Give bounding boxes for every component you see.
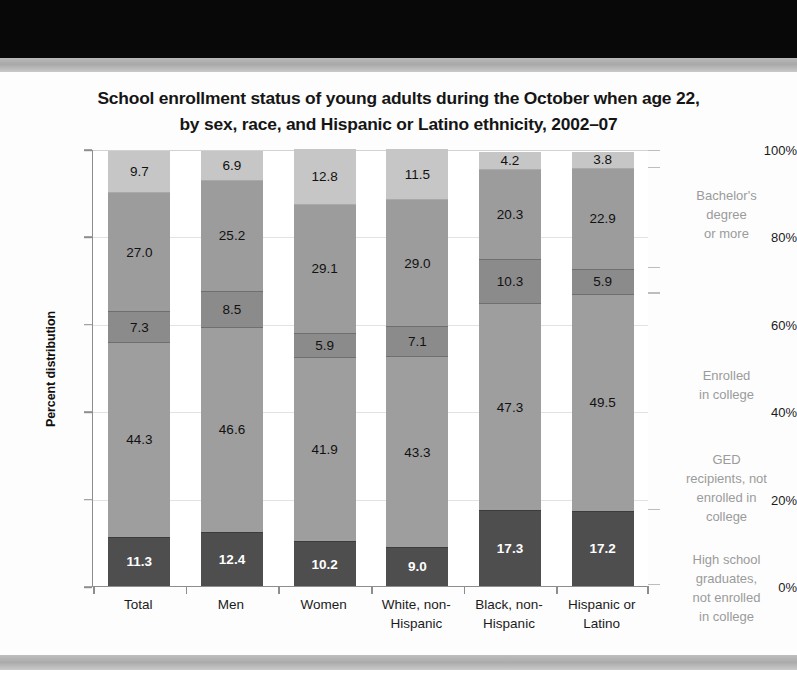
bar-segment[interactable]: 41.9 [294,358,356,541]
x-axis-label-line: Hispanic [368,614,464,633]
bar-segment[interactable]: 12.8 [294,149,356,205]
chart-title: School enrollment status of young adults… [40,85,757,137]
x-axis-label-line: Latino [554,614,650,633]
bar-segment[interactable]: 3.8 [572,152,634,169]
bar-segment[interactable]: 46.6 [201,328,263,532]
bar-column[interactable]: 11.344.37.327.09.7 [108,150,170,586]
x-axis-label: Women [276,595,372,614]
x-axis-label-line: White, non- [368,595,464,614]
chart-title-line-1: School enrollment status of young adults… [40,85,757,111]
legend-item-line: graduates, [660,569,793,588]
y-tick-mark-40 [84,411,92,413]
legend-item-line: college [660,507,793,526]
slide-body: School enrollment status of young adults… [0,72,797,655]
bar-segment[interactable]: 9.7 [108,151,170,193]
x-axis-label: Hispanic orLatino [554,595,650,633]
x-axis-label-line: Men [183,595,279,614]
bar-segment[interactable]: 10.2 [294,541,356,586]
legend-leader-tick [648,167,660,168]
legend-leader-tick [648,150,660,151]
bar-segment[interactable]: 11.5 [386,149,448,199]
bar-segment[interactable]: 6.9 [201,151,263,181]
top-black-band [0,0,797,58]
legend-item-line: or more [660,224,793,243]
x-axis-label: Total [90,595,186,614]
bar-segment[interactable]: 25.2 [201,181,263,291]
y-tick-mark-0 [84,586,92,588]
bar-segment[interactable]: 49.5 [572,295,634,511]
plot-area: 11.344.37.327.09.712.446.68.525.26.910.2… [92,150,648,587]
legend-item-line: enrolled in [660,488,793,507]
bar-segment[interactable]: 12.4 [201,532,263,586]
bottom-divider-rule [0,655,797,670]
bar-segment[interactable]: 29.0 [386,200,448,327]
bar-column[interactable]: 10.241.95.929.112.8 [294,150,356,586]
bar-column[interactable]: 17.249.55.922.93.8 [572,150,634,586]
bottom-margin [0,670,797,678]
legend-item-line: High school [660,550,793,569]
bar-segment[interactable]: 9.0 [386,547,448,586]
bar-segment[interactable]: 5.9 [294,333,356,359]
x-axis-label: Black, non-Hispanic [461,595,557,633]
legend-item: Enrolledin college [660,366,793,404]
y-tick-mark-80 [84,237,92,239]
legend-item-line: Bachelor's [660,186,793,205]
legend-item-line: in college [660,607,793,626]
legend-item-line: recipients, not [660,469,793,488]
bar-segment[interactable]: 4.2 [479,152,541,170]
chart-legend: Bachelor'sdegreeor moreEnrolledin colleg… [660,150,793,587]
x-axis-label-line: Hispanic [461,614,557,633]
x-axis-label-line: Total [90,595,186,614]
y-tick-mark-100 [84,149,92,151]
y-tick-mark-60 [84,324,92,326]
bar-column[interactable]: 17.347.310.320.34.2 [479,150,541,586]
stacked-bars: 11.344.37.327.09.712.446.68.525.26.910.2… [93,150,648,586]
slide-screenshot: School enrollment status of young adults… [0,0,797,678]
bar-segment[interactable]: 27.0 [108,193,170,311]
legend-item-line: Enrolled [660,366,793,385]
legend-item: Bachelor'sdegreeor more [660,186,793,243]
bar-segment[interactable]: 29.1 [294,205,356,332]
y-axis-title: Percent distribution [44,274,58,464]
bar-column[interactable]: 9.043.37.129.011.5 [386,150,448,586]
bar-segment[interactable]: 10.3 [479,259,541,304]
legend-leader-tick [648,509,660,510]
legend-item-line: degree [660,205,793,224]
x-axis-label-line: Black, non- [461,595,557,614]
bar-segment[interactable]: 7.1 [386,326,448,357]
bar-segment[interactable]: 5.9 [572,269,634,295]
legend-leader-tick [648,267,660,268]
bar-segment[interactable]: 17.2 [572,511,634,586]
x-axis-labels: TotalMenWomenWhite, non-HispanicBlack, n… [92,591,648,639]
bar-column[interactable]: 12.446.68.525.26.9 [201,150,263,586]
bar-segment[interactable]: 47.3 [479,304,541,511]
legend-item-line: in college [660,385,793,404]
x-axis-label-line: Women [276,595,372,614]
top-divider-rule [0,58,797,72]
bar-segment[interactable]: 7.3 [108,311,170,343]
legend-leader-tick [648,292,660,293]
chart-area: Percent distribution 0%20%40%60%80%100% … [0,134,797,604]
legend-leader-tick [648,584,660,585]
bar-segment[interactable]: 11.3 [108,537,170,586]
legend-item: High schoolgraduates,not enrolledin coll… [660,550,793,626]
legend-item: GEDrecipients, notenrolled incollege [660,450,793,526]
bar-segment[interactable]: 22.9 [572,169,634,269]
bar-segment[interactable]: 43.3 [386,357,448,546]
bar-segment[interactable]: 8.5 [201,291,263,328]
bar-segment[interactable]: 17.3 [479,510,541,586]
x-axis-label: Men [183,595,279,614]
y-tick-mark-20 [84,499,92,501]
bar-segment[interactable]: 20.3 [479,170,541,259]
legend-item-line: GED [660,450,793,469]
x-axis-label: White, non-Hispanic [368,595,464,633]
legend-item-line: not enrolled [660,588,793,607]
x-axis-label-line: Hispanic or [554,595,650,614]
bar-segment[interactable]: 44.3 [108,343,170,537]
